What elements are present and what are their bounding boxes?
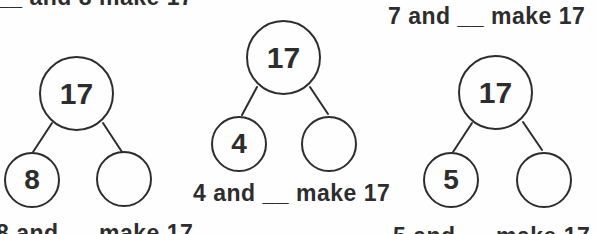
bond-part-circle-2: 4 — [211, 116, 267, 172]
connector-line — [453, 123, 472, 152]
bond-total-circle-2: 17 — [246, 20, 321, 95]
bond-part-circle-3: 5 — [423, 152, 479, 208]
connector-line — [103, 123, 122, 152]
connector-line — [523, 122, 542, 150]
connector-line — [242, 87, 257, 115]
caption-bottom-left-partial: 8 and __ make 17 — [0, 219, 193, 234]
bond-part-circle-1: 8 — [4, 152, 60, 208]
caption-bottom-right-partial: 5 and __ make 17 — [393, 222, 590, 234]
bond-total-circle-3: 17 — [458, 55, 533, 130]
bond-answer-circle-2[interactable] — [301, 116, 357, 172]
bond-answer-circle-1[interactable] — [96, 151, 152, 207]
bond-total-circle-1: 17 — [39, 56, 114, 131]
number-bond-worksheet: __ and 8 make 17 7 and __ make 17 17 8 1… — [0, 0, 597, 234]
connector-line — [33, 123, 52, 152]
caption-middle: 4 and __ make 17 — [193, 179, 390, 207]
bond-answer-circle-3[interactable] — [516, 152, 572, 208]
connector-line — [310, 87, 328, 114]
